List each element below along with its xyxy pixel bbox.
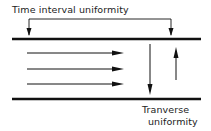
flow-arrow-3-icon	[112, 82, 124, 87]
bracket-right-arrowhead-icon	[169, 28, 174, 36]
transverse-label-line2: uniformity	[148, 116, 198, 127]
up-arrow-icon	[174, 47, 179, 58]
flow-arrows	[27, 51, 124, 87]
bracket-left-arrowhead-icon	[27, 28, 32, 36]
transverse-arrows	[148, 44, 179, 95]
transverse-label-line1: Tranverse	[142, 104, 189, 115]
time-interval-label: Time interval uniformity	[12, 4, 129, 15]
flow-arrow-2-icon	[112, 67, 124, 72]
time-interval-bracket	[27, 19, 174, 36]
flow-arrow-1-icon	[112, 51, 124, 56]
down-arrow-icon	[148, 84, 153, 95]
